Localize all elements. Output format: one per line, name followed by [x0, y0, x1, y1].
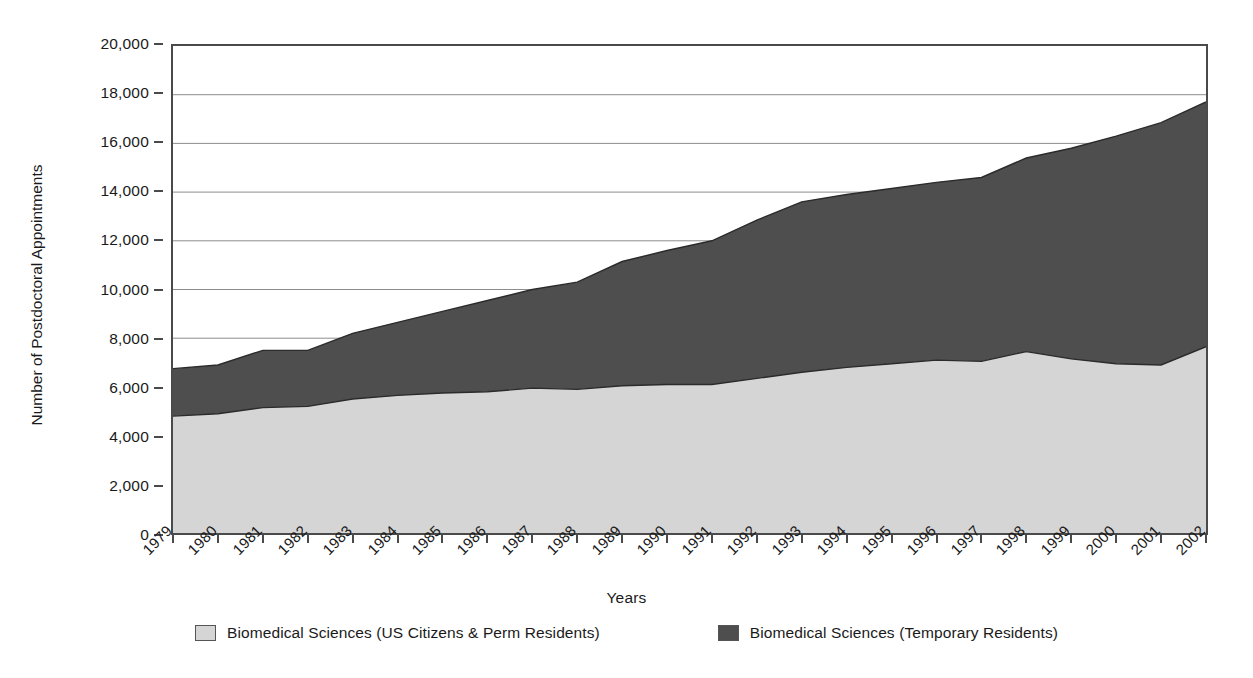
y-tick-mark — [154, 338, 163, 340]
legend: Biomedical Sciences (US Citizens & Perm … — [0, 618, 1253, 648]
y-tick-label: 20,000 — [100, 35, 149, 53]
plot-area — [171, 44, 1208, 535]
y-tick-label: 14,000 — [100, 182, 149, 200]
y-tick-mark — [154, 43, 163, 45]
y-tick-mark — [154, 436, 163, 438]
legend-item-temporary-residents: Biomedical Sciences (Temporary Residents… — [718, 624, 1058, 642]
legend-label-us-citizens: Biomedical Sciences (US Citizens & Perm … — [227, 624, 600, 642]
y-tick-label: 2,000 — [109, 477, 149, 495]
y-tick-label: 16,000 — [100, 133, 149, 151]
y-tick-label: 4,000 — [109, 428, 149, 446]
y-tick-mark — [154, 289, 163, 291]
y-axis: 02,0004,0006,0008,00010,00012,00014,0001… — [0, 0, 171, 579]
y-tick-label: 12,000 — [100, 231, 149, 249]
legend-swatch-dark — [718, 625, 739, 641]
y-tick-mark — [154, 387, 163, 389]
y-tick-label: 6,000 — [109, 379, 149, 397]
y-tick-label: 10,000 — [100, 281, 149, 299]
y-tick-mark — [154, 141, 163, 143]
y-tick-mark — [154, 92, 163, 94]
legend-label-temporary-residents: Biomedical Sciences (Temporary Residents… — [750, 624, 1058, 642]
chart-figure: 02,0004,0006,0008,00010,00012,00014,0001… — [0, 0, 1253, 678]
y-tick-label: 8,000 — [109, 330, 149, 348]
y-axis-title: Number of Postdoctoral Appointments — [28, 85, 46, 505]
legend-swatch-light — [195, 625, 216, 641]
area-chart-svg — [173, 46, 1206, 533]
x-axis-title: Years — [0, 589, 1253, 607]
y-tick-mark — [154, 239, 163, 241]
legend-item-us-citizens: Biomedical Sciences (US Citizens & Perm … — [195, 624, 600, 642]
y-tick-mark — [154, 190, 163, 192]
y-tick-label: 18,000 — [100, 84, 149, 102]
y-tick-mark — [154, 485, 163, 487]
